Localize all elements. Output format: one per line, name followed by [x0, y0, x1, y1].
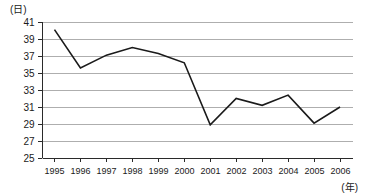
x-axis-tick-label: 2006: [330, 166, 350, 176]
y-axis-tick-label: 41: [23, 17, 35, 28]
y-axis-tick-label: 27: [23, 136, 35, 147]
y-axis-tick-label: 39: [23, 34, 35, 45]
x-axis-tick-label: 1997: [96, 166, 116, 176]
x-axis-tick-label: 1998: [122, 166, 142, 176]
y-axis-tick-label: 25: [23, 153, 35, 164]
y-axis-tick-label: 29: [23, 119, 35, 130]
x-axis-tick-label: 2001: [200, 166, 220, 176]
x-axis-tick-label: 2002: [226, 166, 246, 176]
x-axis-tick-label: 1996: [70, 166, 90, 176]
line-chart: (日) 413937353331292725 19951996199719981…: [0, 0, 366, 196]
y-axis-tick-label: 37: [23, 51, 35, 62]
y-axis-tick-label: 33: [23, 85, 35, 96]
x-axis-tick-label: 1999: [148, 166, 168, 176]
chart-plot-area: 413937353331292725 199519961997199819992…: [0, 0, 366, 196]
x-axis-tick-label: 2004: [278, 166, 298, 176]
x-axis-unit-label: (年): [341, 182, 358, 194]
x-axis-tick-label: 2003: [252, 166, 272, 176]
x-axis-tick-labels: 1995199619971998199920002001200220032004…: [44, 166, 350, 176]
y-axis-tick-label: 35: [23, 68, 35, 79]
x-axis-tick-label: 2000: [174, 166, 194, 176]
x-axis-tick-label: 2005: [304, 166, 324, 176]
y-axis-tick-labels: 413937353331292725: [23, 17, 35, 164]
series-polyline: [54, 30, 340, 125]
data-series-line: [54, 30, 340, 125]
x-axis-tick-label: 1995: [44, 166, 64, 176]
y-axis-tick-label: 31: [23, 102, 35, 113]
